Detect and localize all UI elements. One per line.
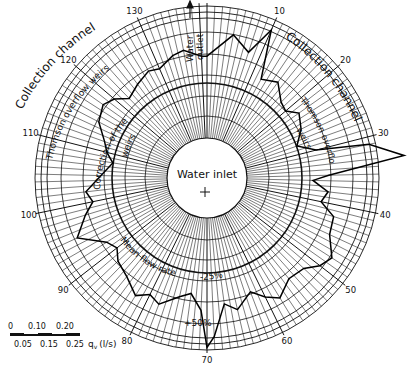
water-outlet-label-1: Water bbox=[185, 35, 195, 62]
angular-tick-label: 100 bbox=[21, 210, 37, 220]
water-inlet-label: Water inlet bbox=[177, 168, 238, 181]
scale-tick-025: 0.25 bbox=[66, 340, 84, 349]
angular-tick-label: 130 bbox=[126, 6, 142, 16]
angular-tick-label: 30 bbox=[378, 128, 389, 138]
angular-tick-label: 60 bbox=[282, 336, 293, 346]
scale-bar: 0 0.10 0.20 0.05 0.15 0.25 qv(l/s) bbox=[8, 322, 117, 350]
scale-tick-005: 0.05 bbox=[14, 340, 32, 349]
plus-50-percent-label: +50% bbox=[184, 318, 212, 328]
angular-tick-label: 20 bbox=[340, 55, 351, 65]
scale-tick-0: 0 bbox=[8, 322, 13, 331]
angular-tick-label: 50 bbox=[345, 285, 356, 295]
polar-flow-chart: 1102030405060708090100110120130138 Water… bbox=[0, 0, 411, 370]
angular-tick-label: 80 bbox=[122, 336, 133, 346]
angular-tick-label: 10 bbox=[274, 6, 285, 16]
angular-tick-label: 90 bbox=[58, 285, 69, 295]
angular-tick-label: 138 bbox=[191, 0, 207, 1]
angular-tick-label: 40 bbox=[380, 210, 391, 220]
scale-tick-020: 0.20 bbox=[56, 322, 74, 331]
angular-tick-label: 70 bbox=[202, 355, 213, 365]
scale-tick-015: 0.15 bbox=[40, 340, 58, 349]
water-outlet-label-2: outlet bbox=[195, 33, 205, 60]
angular-tick-label: 110 bbox=[23, 128, 39, 138]
scale-unit-label: qv(l/s) bbox=[88, 339, 117, 350]
scale-tick-010: 0.10 bbox=[28, 322, 46, 331]
